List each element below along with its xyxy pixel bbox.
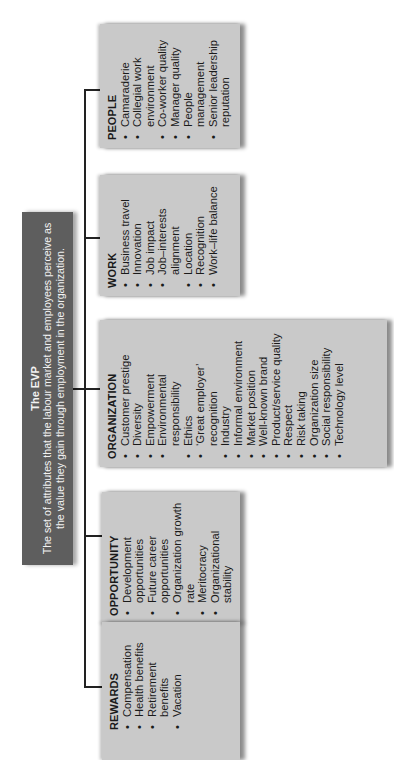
category-items: Business travel Innovation Job impact Jo… xyxy=(119,183,220,288)
category-title: WORK xyxy=(106,183,119,288)
list-item: Compensation xyxy=(121,630,134,730)
list-item: Empowerment xyxy=(144,328,157,459)
list-item: Manager quality xyxy=(169,32,182,140)
category-title: OPPORTUNITY xyxy=(108,500,121,616)
list-item: Recognition xyxy=(194,183,207,288)
connector-organization xyxy=(84,388,100,390)
list-item: Vacation xyxy=(171,630,184,730)
list-item: People management xyxy=(182,32,207,140)
list-item: Job impact xyxy=(144,183,157,288)
list-item: Risk taking xyxy=(295,328,308,459)
list-item: Ethics xyxy=(182,328,195,459)
list-item: ‘Great employer’ recognition xyxy=(194,328,219,459)
list-item: Product/service quality xyxy=(270,328,283,459)
list-item: Development opportunities xyxy=(121,500,146,616)
category-box-people: PEOPLE Camaraderie Collegial work enviro… xyxy=(100,24,240,148)
list-item: Co-worker quality xyxy=(156,32,169,140)
list-item: Organization growth rate xyxy=(171,500,196,616)
list-item: Job–interests alignment xyxy=(156,183,181,288)
list-item: Senior leadership reputation xyxy=(207,32,232,140)
category-box-opportunity: OPPORTUNITY Development opportunities Fu… xyxy=(102,492,240,624)
list-item: Innovation xyxy=(131,183,144,288)
list-item: Technology level xyxy=(333,328,346,459)
list-item: Diversity xyxy=(131,328,144,459)
list-item: Collegial work environment xyxy=(131,32,156,140)
list-item: Retirement benefits xyxy=(146,630,171,730)
list-item: Environmental responsibility xyxy=(156,328,181,459)
list-item: Health benefits xyxy=(133,630,146,730)
category-title: REWARDS xyxy=(108,630,121,730)
list-item: Well-known brand xyxy=(257,328,270,459)
category-title: ORGANIZATION xyxy=(106,328,119,459)
list-item: Informal environment xyxy=(232,328,245,459)
category-items: Camaraderie Collegial work environment C… xyxy=(119,32,232,140)
list-item: Business travel xyxy=(119,183,132,288)
list-item: Industry xyxy=(219,328,232,459)
list-item: Organization size xyxy=(308,328,321,459)
evp-title: The EVP xyxy=(29,220,41,557)
list-item: Market position xyxy=(245,328,258,459)
list-item: Organizational stability xyxy=(209,500,234,616)
category-box-organization: ORGANIZATION Customer prestige Diversity… xyxy=(100,320,387,467)
list-item: Work–life balance xyxy=(207,183,220,288)
list-item: Camaraderie xyxy=(119,32,132,140)
list-item: Location xyxy=(182,183,195,288)
connector-work xyxy=(84,237,100,239)
category-items: Compensation Health benefits Retirement … xyxy=(121,630,184,730)
category-items: Customer prestige Diversity Empowerment … xyxy=(119,328,346,459)
category-box-work: WORK Business travel Innovation Job impa… xyxy=(100,175,240,296)
category-items: Development opportunities Future career … xyxy=(121,500,234,616)
connector-rewards xyxy=(84,686,102,688)
list-item: Future career opportunities xyxy=(146,500,171,616)
list-item: Social responsibility xyxy=(320,328,333,459)
category-title: PEOPLE xyxy=(106,32,119,140)
connector-opportunity xyxy=(84,535,102,537)
evp-root-box: The EVP The set of attributes that the l… xyxy=(22,212,73,565)
list-item: Customer prestige xyxy=(119,328,132,459)
category-box-rewards: REWARDS Compensation Health benefits Ret… xyxy=(102,622,240,760)
list-item: Respect xyxy=(282,328,295,459)
connector-people xyxy=(84,89,100,91)
list-item: Meritocracy xyxy=(196,500,209,616)
evp-description: The set of attributes that the labour ma… xyxy=(41,220,66,557)
